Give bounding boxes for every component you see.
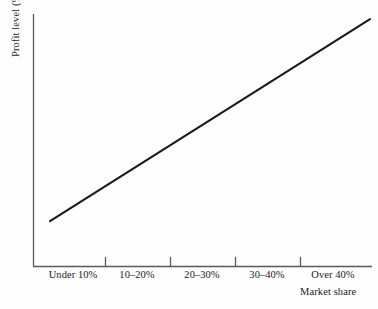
x-axis-tick-labels: Under 10% 10–20% 20–30% 30–40% Over 40% xyxy=(33,269,372,283)
data-line-profit-level xyxy=(50,19,370,221)
x-tick-label-10-20: 10–20% xyxy=(119,269,154,280)
x-axis-title: Market share xyxy=(300,286,356,297)
x-tick-label-20-30: 20–30% xyxy=(184,269,219,280)
x-tick-label-under-10: Under 10% xyxy=(49,269,98,280)
chart-plot-area xyxy=(0,0,378,309)
x-tick-label-over-40: Over 40% xyxy=(311,269,354,280)
chart-figure: Profit level (%) Under 10% 10–20% 20–30%… xyxy=(0,0,378,309)
y-axis-title: Profit level (%) xyxy=(10,0,21,67)
x-tick-label-30-40: 30–40% xyxy=(249,269,284,280)
